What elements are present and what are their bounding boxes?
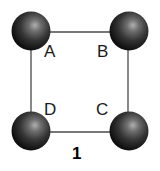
sphere-b [110,12,149,51]
sphere-c [110,112,149,151]
square-sphere-diagram: A B C D 1 [0,0,160,171]
diagram-caption: 1 [72,144,81,163]
label-b: B [97,42,108,61]
label-a: A [44,42,56,61]
vertex-labels: A B C D [44,42,108,119]
label-d: D [44,100,56,119]
label-c: C [96,100,108,119]
